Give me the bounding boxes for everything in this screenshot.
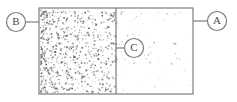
diagram-canvas: BAC xyxy=(0,0,237,102)
particle-dot xyxy=(140,87,141,88)
particle-dot xyxy=(184,69,185,70)
particle-dot xyxy=(88,10,90,12)
particle-dot xyxy=(49,16,51,18)
particle-dot xyxy=(56,57,57,58)
particle-dot xyxy=(60,16,61,17)
particle-dot xyxy=(50,54,51,55)
particle-dot xyxy=(78,64,79,65)
particle-dot xyxy=(69,48,70,49)
particle-dot xyxy=(66,89,68,91)
particle-dot xyxy=(69,46,70,47)
particle-dot xyxy=(73,46,74,47)
particle-dot xyxy=(44,85,45,86)
particle-dot xyxy=(89,28,90,29)
particle-dot xyxy=(46,67,47,68)
particle-dot xyxy=(129,63,130,64)
particle-dot xyxy=(75,46,76,47)
particle-dot xyxy=(85,54,87,56)
particle-dot xyxy=(42,19,43,20)
particle-dot xyxy=(77,71,78,72)
particle-dot xyxy=(42,78,44,80)
particle-dot xyxy=(102,72,103,73)
particle-dot xyxy=(95,48,96,49)
particle-dot xyxy=(75,69,76,70)
particle-dot xyxy=(58,74,60,76)
particle-dot xyxy=(67,30,68,31)
particle-dot xyxy=(48,12,49,13)
particle-dot xyxy=(86,71,87,72)
particle-dot xyxy=(92,89,93,90)
particle-dot xyxy=(95,24,97,26)
particle-dot xyxy=(76,52,77,53)
particle-dot xyxy=(64,57,65,58)
particle-dot xyxy=(130,31,131,32)
particle-dot xyxy=(44,22,45,23)
particle-dot xyxy=(40,58,41,59)
particle-dot xyxy=(106,74,107,75)
callout-b[interactable]: B xyxy=(7,13,40,32)
particle-dot xyxy=(175,43,176,44)
particle-dot xyxy=(52,52,54,54)
particle-dot xyxy=(75,79,76,80)
particle-dot xyxy=(88,18,90,20)
particle-dot xyxy=(87,74,88,75)
particle-dot xyxy=(81,77,82,78)
particle-dot xyxy=(104,28,105,29)
particle-dot xyxy=(136,25,137,26)
particle-dot xyxy=(93,61,94,62)
particle-dot xyxy=(63,37,64,38)
particle-dot xyxy=(43,63,44,64)
particle-dot xyxy=(66,46,68,48)
particle-dot xyxy=(78,88,79,89)
particle-dot xyxy=(109,32,110,33)
particle-dot xyxy=(77,45,78,46)
particle-dot xyxy=(85,20,86,21)
particle-dot xyxy=(40,19,41,20)
particle-dot xyxy=(77,15,79,17)
particle-dot xyxy=(60,75,61,76)
particle-dot xyxy=(74,13,75,14)
particle-dot xyxy=(74,62,76,64)
particle-dot xyxy=(100,35,101,36)
particle-dot xyxy=(81,26,82,27)
particle-dot xyxy=(82,35,83,36)
particle-dot xyxy=(112,49,113,50)
particle-dot xyxy=(67,33,68,34)
particle-dot xyxy=(92,15,93,16)
particle-dot xyxy=(64,60,65,61)
particle-dot xyxy=(113,12,115,14)
particle-dot xyxy=(44,33,45,34)
particle-dot xyxy=(76,39,78,41)
particle-dot xyxy=(76,46,78,48)
particle-dot xyxy=(85,46,86,47)
particle-dot xyxy=(88,16,90,18)
particle-dot xyxy=(87,83,89,85)
particle-dot xyxy=(48,73,49,74)
callout-a[interactable]: A xyxy=(193,12,227,31)
particle-dot xyxy=(45,27,47,29)
particle-dot xyxy=(70,57,71,58)
particle-dot xyxy=(113,36,114,37)
particle-dot xyxy=(64,32,65,33)
particle-dot xyxy=(56,88,58,90)
particle-dot xyxy=(88,92,89,93)
particle-dot xyxy=(59,37,60,38)
particle-dot xyxy=(60,50,61,51)
particle-dot xyxy=(43,89,44,90)
particle-dot xyxy=(89,52,90,53)
particle-dot xyxy=(45,64,46,65)
particle-dot xyxy=(102,87,103,88)
particle-dot xyxy=(94,19,96,21)
particle-dot xyxy=(177,89,178,90)
particle-dot xyxy=(78,66,79,67)
particle-dot xyxy=(93,48,94,49)
particle-dot xyxy=(61,37,62,38)
particle-dot xyxy=(100,67,101,68)
particle-dot xyxy=(64,92,65,93)
particle-dot xyxy=(43,53,44,54)
particle-dot xyxy=(42,56,43,57)
particle-dot xyxy=(100,13,101,14)
particle-dot xyxy=(101,61,102,62)
particle-dot xyxy=(102,35,103,36)
particle-dot xyxy=(41,9,42,10)
